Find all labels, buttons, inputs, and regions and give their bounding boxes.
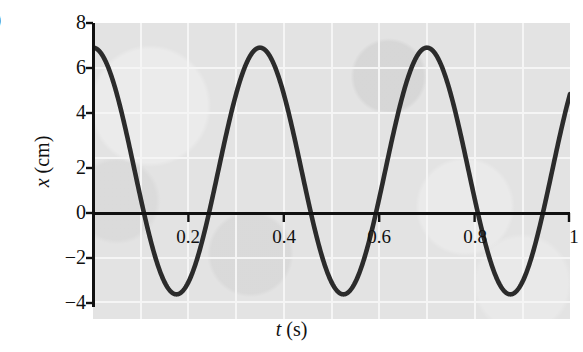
figure-root: ) [0,0,583,352]
x-tick-label: 1 [569,226,579,248]
x-tick-label: 0.4 [272,226,296,248]
x-axis-title: t (s) [0,318,583,341]
x-tick-label: 0.2 [176,226,200,248]
x-tick-label-layer: 0.2 0.4 0.6 0.8 1 [0,0,583,352]
y-axis-unit: (cm) [31,136,53,174]
x-tick-label: 0.8 [463,226,487,248]
x-axis-unit: (s) [286,318,307,340]
x-axis-symbol: t [276,318,282,340]
x-tick-label: 0.6 [367,226,391,248]
y-axis-symbol: x [31,178,53,187]
y-axis-title: x (cm) [31,102,54,222]
